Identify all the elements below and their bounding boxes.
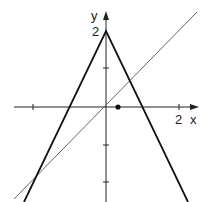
y-tick-label-2: 2 <box>92 24 99 39</box>
y-axis-label: y <box>91 8 98 23</box>
chart: y 2 2 x <box>0 0 208 202</box>
x-axis-label: x <box>190 112 197 127</box>
x-tick-label-2: 2 <box>175 112 182 127</box>
y-axis-arrow-icon <box>103 11 109 20</box>
marked-point <box>115 104 120 109</box>
x-axis-arrow-icon <box>190 104 199 110</box>
